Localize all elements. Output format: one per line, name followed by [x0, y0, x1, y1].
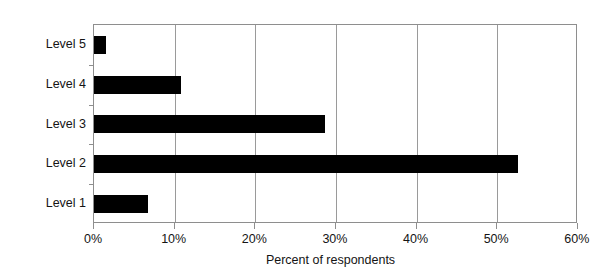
x-axis-label-0: 0%	[63, 232, 123, 246]
plot-area	[93, 24, 577, 223]
bar-chart: Level 5 Level 4 Level 3 Level 2 Level 1	[0, 0, 615, 278]
x-axis-label-40: 40%	[386, 232, 446, 246]
bar-band-level-1	[94, 184, 576, 224]
y-axis-label-level-3: Level 3	[8, 117, 86, 131]
x-tick-40	[416, 223, 417, 229]
x-axis-label-30: 30%	[305, 232, 365, 246]
x-tick-20	[254, 223, 255, 229]
bar-level-2	[94, 155, 518, 173]
y-axis-label-level-4: Level 4	[8, 77, 86, 91]
y-axis-label-level-2: Level 2	[8, 156, 86, 170]
x-tick-60	[577, 223, 578, 229]
bar-level-3	[94, 115, 325, 133]
y-axis-label-level-1: Level 1	[8, 196, 86, 210]
x-axis-label-10: 10%	[144, 232, 204, 246]
x-axis-label-50: 50%	[466, 232, 526, 246]
bar-level-5	[94, 36, 106, 54]
x-tick-10	[174, 223, 175, 229]
x-tick-30	[335, 223, 336, 229]
y-axis-label-level-5: Level 5	[8, 37, 86, 51]
x-axis-label-60: 60%	[547, 232, 607, 246]
bar-level-4	[94, 76, 181, 94]
bar-band-level-4	[94, 65, 576, 105]
bar-band-level-2	[94, 144, 576, 184]
x-axis-title: Percent of respondents	[0, 253, 615, 267]
bar-band-level-3	[94, 105, 576, 145]
bar-level-1	[94, 195, 148, 213]
x-tick-0	[93, 223, 94, 229]
bar-band-level-5	[94, 25, 576, 65]
x-axis-label-20: 20%	[224, 232, 284, 246]
x-tick-50	[496, 223, 497, 229]
